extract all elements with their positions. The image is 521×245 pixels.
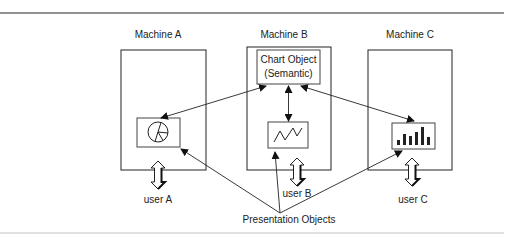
machine-b-label: Machine B (260, 29, 308, 40)
chart-object-subtitle: (Semantic) (264, 68, 312, 79)
line-chart-icon (268, 122, 308, 148)
arrow-semantic-to-c (301, 86, 414, 121)
user-b-double-arrow-icon (290, 158, 304, 186)
bar-chart-icon (392, 123, 435, 149)
distributed-chart-diagram: Machine A Machine B Machine C Chart Obje… (0, 0, 521, 245)
chart-object-title: Chart Object (260, 54, 316, 65)
user-a-double-arrow-icon (151, 161, 165, 189)
pie-chart-icon (137, 118, 180, 147)
arrow-semantic-to-a (161, 86, 266, 118)
machine-c-label: Machine C (386, 29, 434, 40)
user-a-label: user A (144, 194, 173, 205)
user-c-label: user C (398, 194, 427, 205)
machine-a-label: Machine A (135, 29, 182, 40)
machine-a-box (121, 50, 206, 170)
presentation-objects-label: Presentation Objects (243, 214, 336, 225)
pointer-to-a (181, 149, 280, 213)
user-c-double-arrow-icon (405, 158, 419, 186)
pointer-to-b (275, 152, 280, 213)
user-b-label: user B (283, 188, 312, 199)
machine-c-box (368, 50, 452, 170)
